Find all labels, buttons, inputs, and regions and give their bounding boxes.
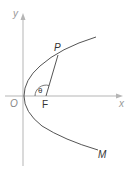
point-p-label: P bbox=[54, 42, 61, 53]
origin-label: O bbox=[10, 98, 18, 109]
y-axis-arrow-icon bbox=[21, 13, 26, 20]
y-axis-label: y bbox=[12, 8, 19, 19]
x-axis-label: x bbox=[118, 98, 125, 109]
parabola-diagram: y x O F P M θ bbox=[0, 0, 137, 171]
point-m-label: M bbox=[98, 149, 107, 160]
focus-label: F bbox=[42, 99, 48, 110]
angle-label: θ bbox=[38, 86, 43, 95]
segment-fp bbox=[46, 55, 58, 96]
